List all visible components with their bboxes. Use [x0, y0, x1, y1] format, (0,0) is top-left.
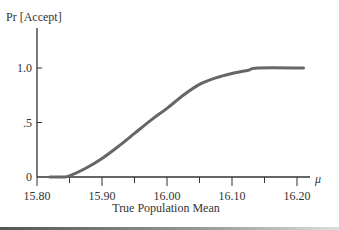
bottom-rule [0, 227, 339, 230]
oc-chart: 0.51.0 15.8015.9016.0016.1016.20 Pr [Acc… [0, 0, 339, 230]
oc-curve-line [50, 68, 304, 177]
y-tick-label: .5 [23, 116, 32, 130]
x-axis-label: True Population Mean [112, 201, 220, 215]
x-axis-symbol: μ [314, 172, 321, 186]
y-tick-label: 0 [26, 170, 32, 184]
y-axis-label: Pr [Accept] [6, 10, 62, 24]
x-tick-label: 16.10 [219, 189, 246, 203]
y-ticks: 0.51.0 [17, 61, 42, 184]
x-ticks: 15.8015.9016.0016.1016.20 [24, 177, 311, 203]
y-tick-label: 1.0 [17, 61, 32, 75]
x-tick-label: 15.80 [24, 189, 51, 203]
x-tick-label: 16.20 [284, 189, 311, 203]
